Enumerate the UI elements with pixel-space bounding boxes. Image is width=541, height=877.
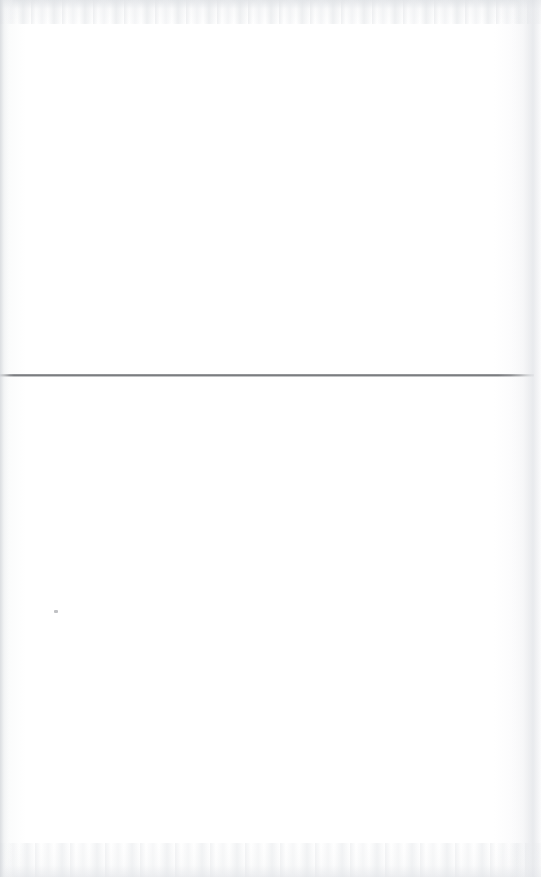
page-content-area [0, 0, 541, 877]
scanned-page [0, 0, 541, 877]
blank-region-below-rule [0, 377, 541, 877]
blank-region-above-rule [0, 0, 541, 374]
